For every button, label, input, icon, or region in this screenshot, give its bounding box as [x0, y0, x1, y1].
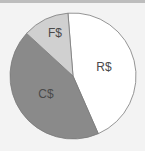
pie-chart: R$ C$ F$ [0, 0, 145, 151]
slice-label-r: R$ [96, 60, 112, 74]
slice-label-f: F$ [48, 26, 62, 40]
pie-slices [10, 13, 136, 139]
slice-label-c: C$ [38, 87, 54, 101]
